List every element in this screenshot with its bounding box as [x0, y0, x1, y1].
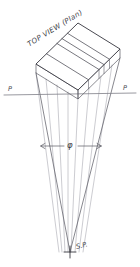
projection-line-2 — [46, 79, 62, 252]
picture-plane-label-left: P — [8, 85, 12, 93]
vision-ray-left — [36, 73, 70, 252]
drawing-canvas: TOP VIEW (Plan) P P φ S.P. — [0, 0, 140, 267]
projection-line-1 — [36, 73, 59, 252]
angle-phi-label: φ — [67, 140, 73, 150]
station-point-marker — [64, 246, 76, 258]
projection-line-3 — [57, 85, 65, 252]
picture-plane-label-right: P — [123, 84, 127, 92]
perspective-diagram-svg — [0, 0, 140, 267]
